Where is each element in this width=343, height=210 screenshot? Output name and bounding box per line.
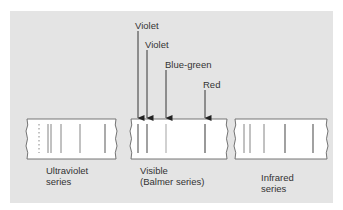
label-visible: Visible (Balmer series) — [140, 165, 204, 187]
label-visible-line1: Visible — [140, 165, 204, 176]
label-violet-2: Violet — [145, 39, 169, 50]
label-ultraviolet-line2: series — [46, 176, 88, 187]
label-infrared: Infrared series — [261, 172, 294, 194]
visible-strip — [130, 119, 228, 159]
label-infrared-line2: series — [261, 183, 294, 194]
ultraviolet-strip — [26, 119, 117, 159]
label-visible-line2: (Balmer series) — [140, 176, 204, 187]
label-red: Red — [203, 79, 220, 90]
label-ultraviolet-line1: Ultraviolet — [46, 165, 88, 176]
infrared-strip — [234, 119, 328, 159]
label-violet-1: Violet — [135, 20, 159, 31]
label-blue-green: Blue-green — [165, 59, 211, 70]
label-ultraviolet: Ultraviolet series — [46, 165, 88, 187]
label-infrared-line1: Infrared — [261, 172, 294, 183]
